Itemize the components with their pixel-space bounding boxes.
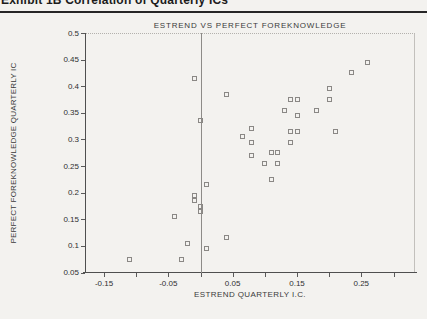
data-point-marker xyxy=(314,108,319,113)
x-tick xyxy=(104,273,105,277)
data-point-marker xyxy=(295,97,300,102)
data-point-marker xyxy=(127,257,132,262)
y-tick xyxy=(81,193,85,194)
data-point-marker xyxy=(269,150,274,155)
y-tick xyxy=(81,273,85,274)
y-tick-label: 0.35 xyxy=(39,108,79,117)
data-point-marker xyxy=(172,214,177,219)
data-point-marker xyxy=(295,129,300,134)
x-tick-label: 0.25 xyxy=(341,279,381,288)
x-tick-label: 0.05 xyxy=(213,279,253,288)
y-tick-label: 0.25 xyxy=(39,162,79,171)
y-tick xyxy=(81,139,85,140)
header-rule xyxy=(0,11,427,13)
x-tick xyxy=(201,273,202,277)
data-point-marker xyxy=(185,241,190,246)
y-tick xyxy=(81,60,85,61)
data-point-marker xyxy=(204,182,209,187)
y-tick-label: 0.2 xyxy=(39,188,79,197)
data-point-marker xyxy=(275,161,280,166)
x-tick-label: -0.15 xyxy=(84,279,124,288)
data-point-marker xyxy=(224,92,229,97)
x-tick xyxy=(361,273,362,277)
x-axis-line xyxy=(83,272,417,273)
data-point-marker xyxy=(192,193,197,198)
data-point-marker xyxy=(262,161,267,166)
data-point-marker xyxy=(249,126,254,131)
x-tick xyxy=(233,273,234,277)
y-tick-label: 0.3 xyxy=(39,135,79,144)
x-tick-label: 0.15 xyxy=(277,279,317,288)
x-axis-label: ESTREND QUARTERLY I.C. xyxy=(85,290,415,299)
data-point-marker xyxy=(295,113,300,118)
x-tick-label: -0.05 xyxy=(148,279,188,288)
zero-reference-line xyxy=(201,33,202,276)
y-tick xyxy=(81,86,85,87)
data-point-marker xyxy=(269,177,274,182)
data-point-marker xyxy=(282,108,287,113)
y-tick-label: 0.1 xyxy=(39,241,79,250)
data-point-marker xyxy=(198,204,203,209)
y-tick xyxy=(81,113,85,114)
data-point-marker xyxy=(240,134,245,139)
y-tick xyxy=(81,33,85,34)
data-point-marker xyxy=(249,140,254,145)
page-header-fragment: Exhibit 1B Correlation of Quarterly ICs xyxy=(1,0,228,7)
y-tick-label: 0.05 xyxy=(39,268,79,277)
data-point-marker xyxy=(333,129,338,134)
data-point-marker xyxy=(349,70,354,75)
data-point-marker xyxy=(179,257,184,262)
data-point-marker xyxy=(365,60,370,65)
data-point-marker xyxy=(288,140,293,145)
chart-title: ESTREND VS PERFECT FOREKNOWLEDGE xyxy=(85,21,415,30)
y-tick-label: 0.5 xyxy=(39,29,79,38)
data-point-marker xyxy=(198,209,203,214)
y-axis-label: PERFECT FOREKNOWLEDGE QUARTERLY IC xyxy=(9,33,19,273)
x-tick xyxy=(297,273,298,277)
y-axis-line xyxy=(85,33,86,273)
x-tick xyxy=(394,273,395,277)
data-point-marker xyxy=(327,97,332,102)
data-point-marker xyxy=(224,235,229,240)
scatter-chart-page: Exhibit 1B Correlation of Quarterly ICs … xyxy=(0,0,427,319)
data-point-marker xyxy=(192,76,197,81)
y-tick xyxy=(81,246,85,247)
y-tick xyxy=(81,166,85,167)
y-tick xyxy=(81,219,85,220)
x-tick xyxy=(168,273,169,277)
data-point-marker xyxy=(204,246,209,251)
y-tick-label: 0.15 xyxy=(39,215,79,224)
y-tick-label: 0.4 xyxy=(39,82,79,91)
y-tick-label: 0.45 xyxy=(39,55,79,64)
data-point-marker xyxy=(249,153,254,158)
data-point-marker xyxy=(198,118,203,123)
x-tick xyxy=(329,273,330,277)
data-point-marker xyxy=(275,150,280,155)
data-point-marker xyxy=(327,86,332,91)
data-point-marker xyxy=(288,129,293,134)
x-tick xyxy=(265,273,266,277)
data-point-marker xyxy=(192,198,197,203)
data-point-marker xyxy=(288,97,293,102)
x-tick xyxy=(136,273,137,277)
